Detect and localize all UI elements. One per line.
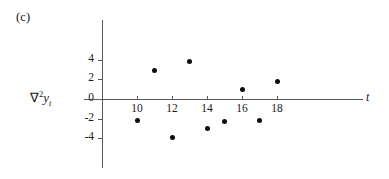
y-tick-label: 2 [72, 71, 94, 83]
y-tick-label: -4 [72, 130, 94, 142]
scatter-point [187, 59, 192, 64]
y-axis-line [102, 20, 103, 168]
x-tick-mark [172, 96, 173, 100]
scatter-point [135, 118, 140, 123]
y-tick-label: 4 [72, 52, 94, 64]
x-tick-mark [242, 96, 243, 100]
nabla-symbol: ∇ [30, 90, 39, 105]
panel-label: (c) [16, 10, 30, 25]
y-tick-label: -2 [72, 111, 94, 123]
scatter-point [205, 126, 210, 131]
x-tick-mark [277, 96, 278, 100]
x-tick-label: 14 [195, 102, 219, 114]
x-axis-line [84, 99, 363, 100]
x-axis-label: t [366, 90, 369, 105]
x-tick-mark [137, 96, 138, 100]
scatter-point [222, 119, 227, 124]
y-axis-label: ∇2yt [30, 89, 51, 108]
scatter-point [240, 87, 245, 92]
figure-panel-c: (c) ∇2yt t 1012141618 420-2-4 [0, 0, 389, 179]
x-tick-mark [207, 96, 208, 100]
x-tick-label: 10 [125, 102, 149, 114]
x-tick-label: 16 [230, 102, 254, 114]
y-tick-mark [98, 79, 102, 80]
scatter-point [170, 135, 175, 140]
y-tick-mark [98, 119, 102, 120]
y-tick-mark [98, 138, 102, 139]
scatter-point [257, 118, 262, 123]
scatter-point [275, 79, 280, 84]
y-tick-label: 0 [72, 91, 94, 103]
x-tick-label: 18 [265, 102, 289, 114]
y-subscript: t [49, 98, 51, 108]
x-tick-label: 12 [160, 102, 184, 114]
y-tick-mark [98, 60, 102, 61]
scatter-point [152, 68, 157, 73]
